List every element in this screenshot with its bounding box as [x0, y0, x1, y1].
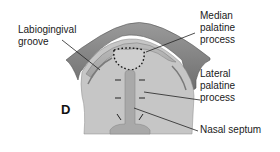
- label-lateral-palatine-process: Lateral palatine process: [200, 68, 235, 104]
- panel-letter: D: [61, 102, 70, 117]
- label-labiogingival-groove: Labiogingival groove: [18, 24, 76, 48]
- label-median-palatine-process: Median palatine process: [200, 10, 235, 46]
- label-nasal-septum: Nasal septum: [200, 124, 261, 136]
- embryonic-palate-diagram: Labiogingival groove Median palatine pro…: [0, 0, 280, 152]
